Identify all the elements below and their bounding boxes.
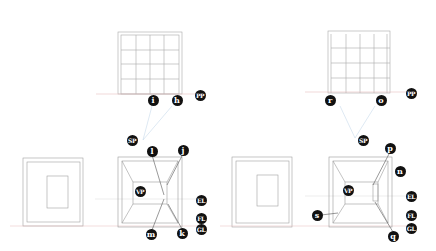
label-picture-plane: PP — [195, 90, 206, 101]
label-r: r — [325, 95, 336, 106]
left-plan-grid — [118, 32, 182, 94]
label-q: q — [388, 231, 399, 242]
label-vanishing-point: VP — [343, 185, 354, 196]
label-vanishing-point: VP — [135, 186, 146, 197]
label-eye-level: EL — [406, 191, 417, 202]
label-h: h — [172, 95, 183, 106]
label-o: o — [376, 95, 387, 106]
left-perspective-room — [118, 157, 182, 227]
label-ground-line: GL — [196, 224, 207, 235]
label-station-point: SP — [358, 135, 369, 146]
label-n: n — [395, 166, 406, 177]
label-picture-plane: PP — [406, 88, 417, 99]
label-floor-line: FL — [406, 210, 417, 221]
right-elevation — [232, 157, 292, 227]
label-ground-line: GL — [406, 223, 417, 234]
label-j: j — [178, 145, 189, 156]
label-m: m — [146, 229, 157, 240]
label-s: s — [312, 210, 323, 221]
label-floor-line: FL — [196, 213, 207, 224]
label-eye-level: EL — [196, 195, 207, 206]
right-perspective-room — [329, 157, 392, 227]
left-elevation — [23, 158, 83, 226]
label-station-point: SP — [127, 135, 138, 146]
label-l: l — [147, 146, 158, 157]
label-p: p — [385, 143, 396, 154]
label-k: k — [177, 228, 188, 239]
label-i: i — [148, 95, 159, 106]
right-plan-grid — [328, 31, 390, 93]
perspective-diagram — [0, 0, 436, 251]
